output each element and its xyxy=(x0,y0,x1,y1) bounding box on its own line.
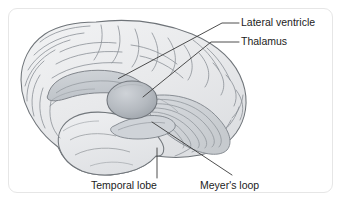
label-meyers-loop: Meyer's loop xyxy=(200,179,259,191)
thalamus-shape xyxy=(107,81,157,119)
label-thalamus: Thalamus xyxy=(241,35,287,47)
brain-anatomy-figure: Lateral ventricle Thalamus Temporal lobe… xyxy=(0,0,343,203)
label-lateral-ventricle: Lateral ventricle xyxy=(241,16,315,28)
label-temporal-lobe: Temporal lobe xyxy=(91,179,157,191)
brain-diagram-svg: Lateral ventricle Thalamus Temporal lobe… xyxy=(0,0,343,203)
